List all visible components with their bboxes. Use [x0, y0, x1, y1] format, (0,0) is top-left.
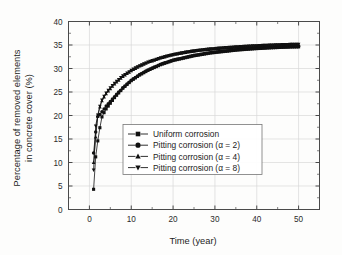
y-tick-label: 15	[53, 135, 63, 144]
x-tick-label: 10	[127, 215, 137, 224]
x-tick-label: 50	[294, 215, 304, 224]
legend-marker-square	[136, 132, 141, 137]
legend-marker-circle	[135, 143, 140, 148]
y-tick-label: 35	[53, 41, 63, 50]
legend-label: Pitting corrosion (α = 8)	[153, 163, 240, 173]
y-tick-label: 5	[58, 182, 63, 191]
y-tick-label: 20	[53, 112, 63, 121]
chart-figure: 010203040500510152025303540 Uniform corr…	[0, 0, 342, 255]
x-tick-label: 40	[252, 215, 262, 224]
y-tick-label: 40	[53, 18, 63, 27]
y-tick-label: 25	[53, 88, 63, 97]
corrosion-removal-chart: 010203040500510152025303540 Uniform corr…	[0, 0, 342, 255]
x-axis-title: Time (year)	[169, 236, 216, 246]
x-tick-label: 20	[169, 215, 179, 224]
legend-label: Pitting corrosion (α = 4)	[153, 152, 240, 162]
data-marker	[100, 110, 103, 113]
x-tick-label: 0	[87, 215, 92, 224]
data-marker	[96, 139, 99, 142]
data-marker	[102, 107, 105, 110]
y-tick-label: 30	[53, 65, 63, 74]
x-tick-label: 30	[210, 215, 220, 224]
y-axis-title-line2: in concrete cover (%)	[24, 74, 34, 162]
y-axis-title-line1: Percentage of removed elements	[12, 49, 22, 186]
chart-legend[interactable]: Uniform corrosionPitting corrosion (α = …	[123, 125, 262, 175]
legend-label: Pitting corrosion (α = 2)	[153, 140, 240, 150]
data-marker	[98, 126, 101, 129]
y-tick-label: 10	[53, 159, 63, 168]
y-tick-label: 0	[58, 206, 63, 215]
data-marker	[92, 188, 95, 191]
legend-label: Uniform corrosion	[153, 129, 219, 139]
